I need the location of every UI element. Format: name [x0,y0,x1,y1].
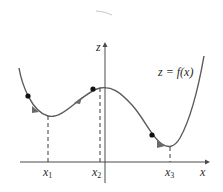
descent-arrow-icon [157,140,165,148]
start-point-dot [90,86,95,91]
start-point-dot [149,132,154,137]
x-axis-label: x [200,166,205,178]
start-point-dot [25,93,30,98]
gradient-descent-diagram: z x z = f(x) x1 x2 x3 [0,0,223,192]
tick-label-x1: x1 [43,166,52,180]
z-axis-label: z [96,41,101,53]
tick-label-x3: x3 [165,166,174,180]
z-axis-arrow-icon [103,42,108,47]
faint-mark [96,11,112,15]
x-axis-arrow-icon [205,160,210,165]
curve-label: z = f(x) [158,66,193,78]
plot-canvas [0,0,223,192]
tick-label-x2: x2 [92,166,101,180]
descent-arrow-icon [74,97,82,104]
